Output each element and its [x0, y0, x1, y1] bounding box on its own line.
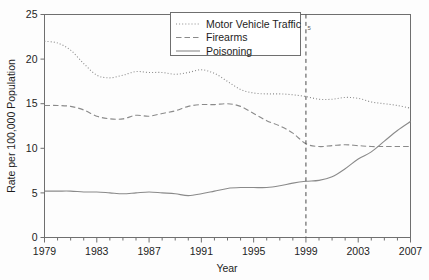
- y-axis-title: Rate per 100,000 Population: [5, 59, 17, 193]
- x-tick-label: 1999: [294, 245, 318, 257]
- y-tick-label: 5: [32, 187, 38, 199]
- series-group: [45, 41, 411, 195]
- y-axis-ticks: 0510152025: [26, 8, 45, 243]
- y-tick-label: 25: [26, 8, 38, 20]
- x-tick-label: 2003: [347, 245, 371, 257]
- chart-container: Rate per 100,000 Population Year 0510152…: [0, 0, 429, 280]
- y-tick-label: 10: [26, 142, 38, 154]
- x-tick-label: 1991: [190, 245, 214, 257]
- x-tick-label: 1987: [137, 245, 161, 257]
- reference-line-label: 5: [307, 25, 311, 31]
- y-tick-label: 20: [26, 53, 38, 65]
- series-line-poisoning: [45, 122, 411, 196]
- series-line-firearms: [45, 104, 411, 147]
- y-tick-label: 15: [26, 97, 38, 109]
- x-tick-label: 1979: [33, 245, 57, 257]
- legend-label-firearms: Firearms: [206, 31, 247, 43]
- x-tick-label: 2007: [399, 245, 423, 257]
- legend-label-motor-vehicle-traffic: Motor Vehicle Traffic: [206, 18, 301, 30]
- x-axis-title: Year: [216, 262, 238, 274]
- annotation-group: 5: [306, 15, 312, 238]
- x-tick-label: 1995: [242, 245, 266, 257]
- legend-label-poisoning: Poisoning: [206, 45, 252, 57]
- line-chart: Rate per 100,000 Population Year 0510152…: [0, 0, 429, 280]
- y-tick-label: 0: [32, 231, 38, 243]
- x-tick-label: 1983: [85, 245, 109, 257]
